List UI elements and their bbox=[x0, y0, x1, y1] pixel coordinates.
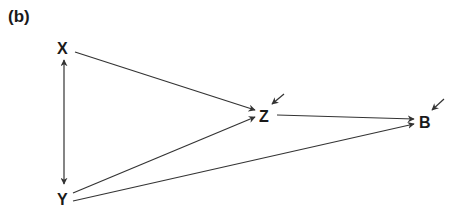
node-z: Z bbox=[259, 108, 269, 125]
edge-y-z bbox=[73, 117, 255, 193]
edge-y-b bbox=[73, 124, 414, 201]
edge-x-z bbox=[75, 52, 255, 110]
error-arrow-z bbox=[272, 94, 284, 104]
node-b: B bbox=[419, 114, 431, 131]
node-x: X bbox=[57, 40, 68, 57]
edge-z-b bbox=[277, 115, 414, 119]
panel-label: (b) bbox=[8, 7, 30, 26]
causal-diagram: (b) X Y Z B bbox=[0, 0, 466, 216]
node-y: Y bbox=[57, 191, 68, 208]
error-arrow-b bbox=[432, 99, 444, 110]
